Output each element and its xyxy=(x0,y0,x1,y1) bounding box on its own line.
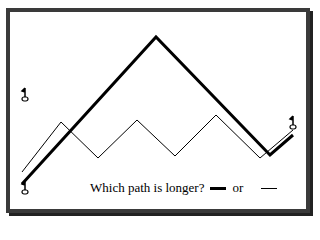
thin-path xyxy=(22,115,293,172)
thick-line-swatch xyxy=(210,187,226,190)
question-line: Which path is longer? or xyxy=(90,180,277,196)
flag-icon xyxy=(22,181,28,194)
flag-icon xyxy=(290,116,296,129)
question-text: Which path is longer? xyxy=(90,180,204,196)
or-text: or xyxy=(232,180,243,196)
thick-path xyxy=(22,37,293,184)
thin-line-swatch xyxy=(261,188,277,189)
flag-icon xyxy=(22,88,28,101)
